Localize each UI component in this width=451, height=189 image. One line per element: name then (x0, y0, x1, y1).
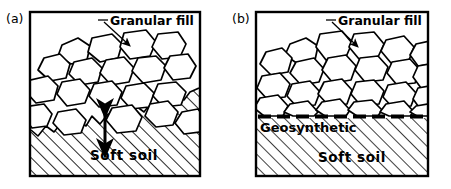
figure-granular-fill-geosynthetic: (a) (b) Granular fill Granular fill Soft… (0, 0, 451, 189)
diagram-canvas: (a) (b) Granular fill Granular fill Soft… (0, 0, 451, 189)
panel-tag-a: (a) (6, 11, 23, 26)
granular-fill-label-b: Granular fill (338, 13, 422, 28)
panel-tag-b: (b) (232, 11, 250, 26)
soft-soil-label-b: Soft soil (318, 149, 386, 165)
granular-fill-label-a: Granular fill (110, 13, 194, 28)
soft-soil-label-a: Soft soil (90, 147, 158, 163)
geosynthetic-label: Geosynthetic (260, 120, 357, 135)
